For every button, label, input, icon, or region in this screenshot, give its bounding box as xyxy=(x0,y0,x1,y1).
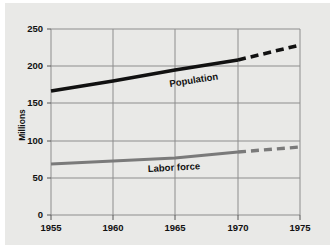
xtick-label-1970: 1970 xyxy=(227,222,248,233)
xtick-label-1955: 1955 xyxy=(40,222,62,233)
ytick-label-0: 0 xyxy=(38,209,43,220)
line-chart: 250 200 150 100 50 0 1955 1960 1965 1970… xyxy=(5,3,330,245)
ytick-label-200: 200 xyxy=(27,60,43,71)
ytick-label-50: 50 xyxy=(32,172,43,183)
ytick-label-150: 150 xyxy=(27,97,43,108)
xtick-label-1965: 1965 xyxy=(164,222,186,233)
ytick-label-250: 250 xyxy=(27,23,43,34)
xtick-label-1960: 1960 xyxy=(102,222,123,233)
ytick-label-100: 100 xyxy=(27,135,43,146)
xtick-label-1975: 1975 xyxy=(289,222,311,233)
chart-figure: 250 200 150 100 50 0 1955 1960 1965 1970… xyxy=(5,3,330,245)
y-axis-title: Millions xyxy=(17,109,27,141)
